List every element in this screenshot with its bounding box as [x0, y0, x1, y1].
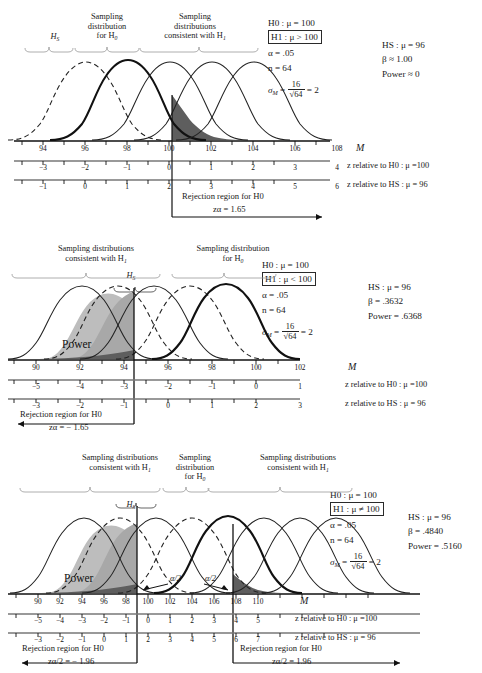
panel3-rejection-left-text: Rejection region for H0	[22, 643, 104, 653]
panel1-rejection-region-text: Rejection region for H0	[182, 191, 264, 201]
panel3-rejection-right-text: Rejection region for H0	[240, 643, 322, 653]
panel1-zs-tick-2: 1	[114, 182, 140, 191]
panel3-bracket-hs	[116, 503, 156, 508]
panel1-m-axis-label: M	[356, 142, 364, 153]
panel1-z0-tick-1: −2	[72, 163, 98, 172]
panel2-bracket-h1	[12, 273, 160, 278]
panel1-m-tick-7: 108	[324, 144, 350, 153]
panel2-m-tick-4: 98	[199, 363, 225, 372]
panel1-m-tick-2: 98	[114, 144, 140, 153]
panel1-m-tick-4: 102	[198, 144, 224, 153]
panel3-alpha-left-label: α/2	[170, 574, 181, 583]
panel2-zs-tick-2: −1	[111, 401, 137, 410]
panel1-zs-tick-3: 2	[156, 182, 182, 191]
panel1-m-tick-5: 104	[240, 144, 266, 153]
panel1-bracket-hs	[25, 47, 73, 52]
panel2-zs-tick-5: 2	[243, 401, 269, 410]
panel2-z0-tick-0: −5	[23, 382, 49, 391]
panel1-z0-tick-4: 1	[198, 163, 224, 172]
panel2-z0-axis-label: z relative to H0 : μ =100	[345, 380, 427, 389]
panel1-curve-h1-c	[176, 62, 332, 140]
panel3-alpha-left-arrowhead	[143, 585, 150, 590]
panel-one-tailed-lower: Sampling distributions consistent with H…	[0, 228, 482, 438]
panel3-z0-axis-label: z relative to H0 : μ =100	[295, 614, 377, 623]
panel3-rejection-arrow-right-head	[394, 660, 400, 666]
panel2-zs-tick-6: 3	[287, 401, 313, 410]
panel3-m-axis-label: M	[300, 595, 308, 606]
panel1-zs-tick-4: 3	[198, 182, 224, 191]
panel1-zs-tick-0: −1	[30, 182, 56, 191]
panel3-bracket-right	[208, 487, 352, 492]
panel2-z0-tick-1: −4	[67, 382, 93, 391]
panel3-zs-axis-label: z relative to HS : μ = 96	[295, 633, 376, 642]
panel2-zs-tick-4: 1	[199, 401, 225, 410]
panel3-rejection-right-z: zα/2 = 1.96	[272, 656, 311, 666]
panel3-alpha-right-arrowhead	[221, 585, 228, 590]
panel1-bracket-h1	[140, 47, 258, 52]
panel1-m-tick-1: 96	[72, 144, 98, 153]
panel2-m-tick-1: 92	[67, 363, 93, 372]
panel2-z0-tick-6: 1	[287, 382, 313, 391]
panel2-rejection-z-label: zα = − 1.65	[49, 422, 89, 432]
panel2-bracket-h0	[172, 273, 276, 278]
panel1-z0-tick-2: −1	[114, 163, 140, 172]
panel2-curve-h0-bold	[152, 284, 300, 359]
panel1-curve-hs-dashed	[8, 62, 164, 140]
panel2-m-tick-6: 102	[287, 363, 313, 372]
panel1-bracket-h0	[75, 47, 139, 52]
panel1-z0-tick-5: 2	[240, 163, 266, 172]
panel3-bracket-mid	[163, 487, 209, 492]
panel3-rejection-arrow-left-head	[22, 660, 28, 666]
panel1-z0-axis-label: z relative to H0 : μ =100	[347, 161, 429, 170]
panel1-curve-h1-a	[92, 62, 248, 140]
panel2-z0-tick-2: −3	[111, 382, 137, 391]
panel2-m-axis-label: M	[348, 361, 356, 372]
panel2-rejection-region-text: Rejection region for H0	[20, 409, 102, 419]
panel1-rejection-z-label: zα = 1.65	[213, 204, 246, 214]
panel3-rejection-left-z: zα/2 = − 1.96	[48, 656, 94, 666]
panel1-zs-axis-label: z relative to HS : μ = 96	[347, 180, 428, 189]
panel3-z0-tick-10: 5	[245, 616, 271, 625]
panel1-m-tick-0: 94	[30, 144, 56, 153]
panel3-power-shade-label: Power	[64, 572, 93, 584]
panel2-m-tick-2: 94	[111, 363, 137, 372]
panel2-power-shade-label: Power	[62, 338, 91, 350]
panel1-z0-tick-6: 3	[282, 163, 308, 172]
panel2-z0-tick-5: 0	[243, 382, 269, 391]
panel3-bracket-left	[20, 487, 160, 492]
panel2-m-tick-0: 90	[23, 363, 49, 372]
panel1-m-tick-6: 106	[282, 144, 308, 153]
panel1-curve-h1-b	[134, 62, 290, 140]
panel1-zs-tick-1: 0	[72, 182, 98, 191]
panel1-zs-tick-5: 4	[240, 182, 266, 191]
panel2-m-tick-3: 96	[155, 363, 181, 372]
panel2-z0-tick-3: −2	[155, 382, 181, 391]
panel1-rejection-arrow-head	[316, 214, 322, 220]
panel2-rejection-arrow-head	[18, 421, 24, 427]
panel3-alpha-right-label: α/2	[205, 574, 216, 583]
panel-one-tailed-upper: HS Sampling distribution for H0 Sampling…	[0, 0, 482, 228]
panel3-m-tick-10: 110	[245, 597, 271, 606]
panel1-zs-tick-6: 5	[282, 182, 308, 191]
panel-two-tailed: Sampling distributions consistent with H…	[0, 438, 482, 673]
panel2-m-tick-5: 100	[243, 363, 269, 372]
panel2-z0-tick-4: −1	[199, 382, 225, 391]
panel1-z0-tick-3: 0	[156, 163, 182, 172]
panel2-zs-tick-3: 0	[155, 401, 181, 410]
panel1-m-tick-3: 100	[156, 144, 182, 153]
panel2-zs-axis-label: z relative to HS : μ = 96	[345, 399, 426, 408]
panel3-curve-8	[262, 518, 410, 593]
panel2-bracket-hs	[114, 287, 156, 292]
panel1-z0-tick-0: −3	[30, 163, 56, 172]
